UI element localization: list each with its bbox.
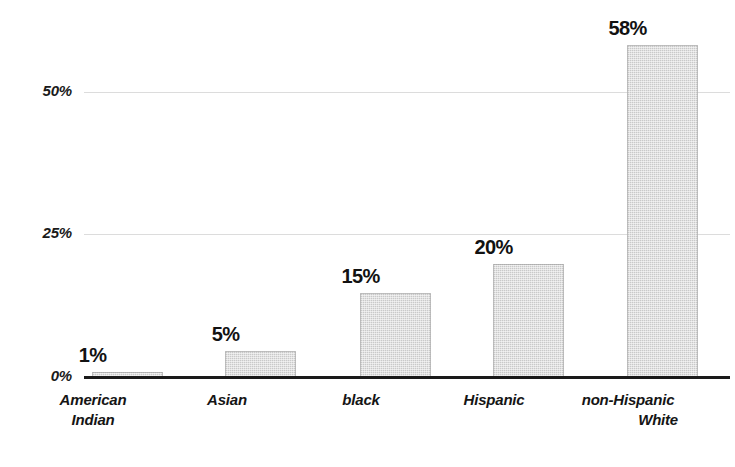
category-label-line1: American (60, 391, 127, 408)
y-tick-label-50: 50% (43, 82, 72, 99)
category-label-line2: Indian (52, 410, 134, 430)
category-label-american-indian: American Indian (52, 390, 134, 430)
y-tick-label-0: 0% (51, 367, 72, 384)
category-label-line1: Asian (207, 391, 247, 408)
bar-non-hispanic-white (627, 45, 698, 378)
category-label-line1: non-Hispanic (582, 391, 675, 408)
category-label-non-hispanic-white: non-Hispanic White (578, 390, 678, 430)
category-label-asian: Asian (186, 390, 268, 410)
value-label-black: 15% (325, 266, 396, 286)
bar-asian (225, 351, 296, 378)
category-label-line1: black (342, 391, 379, 408)
y-tick-label-25: 25% (43, 224, 72, 241)
category-label-hispanic: Hispanic (453, 390, 535, 410)
value-label-non-hispanic-white: 58% (592, 18, 663, 38)
plot-area (84, 10, 730, 378)
bar-hispanic (493, 264, 564, 378)
value-label-hispanic: 20% (458, 237, 529, 257)
category-label-line2: White (578, 410, 678, 430)
x-axis-line (84, 376, 730, 379)
category-label-black: black (320, 390, 402, 410)
category-label-line1: Hispanic (464, 391, 525, 408)
value-label-american-indian: 1% (57, 345, 128, 365)
value-label-asian: 5% (190, 324, 261, 344)
bar-black (360, 293, 431, 378)
bar-chart: 50% 25% 0% 1% 5% 15% 20% 58% American In… (0, 0, 735, 467)
